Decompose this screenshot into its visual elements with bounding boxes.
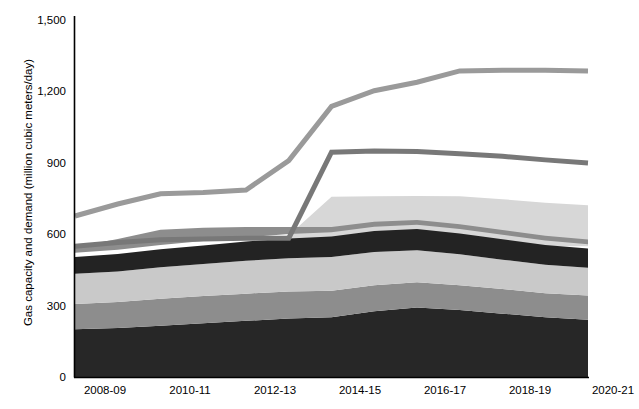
- line-total-capacity-line: [75, 70, 588, 216]
- stacked-areas-group: [75, 196, 588, 377]
